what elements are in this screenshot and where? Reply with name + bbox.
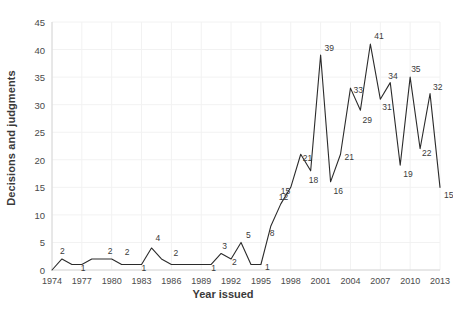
data-point-label: 1 (211, 263, 216, 273)
data-point-label: 21 (345, 152, 354, 162)
data-point-label: 32 (433, 82, 442, 92)
x-tick-label: 1986 (161, 276, 181, 286)
data-point-label: 1 (265, 262, 270, 272)
x-tick-label: 1995 (251, 276, 271, 286)
data-point-label: 2 (60, 246, 65, 256)
y-tick-label: 35 (19, 72, 45, 83)
y-tick-label: 30 (19, 99, 45, 110)
y-tick-label: 15 (19, 182, 45, 193)
data-point-label: 31 (382, 102, 391, 112)
data-point-label: 33 (353, 85, 362, 95)
data-point-label: 2 (108, 246, 113, 256)
data-point-label: 3 (222, 241, 227, 251)
x-tick-label: 2004 (340, 276, 360, 286)
data-point-label: 5 (246, 230, 251, 240)
x-tick-label: 2007 (370, 276, 390, 286)
data-point-label: 8 (270, 228, 275, 238)
data-point-label: 41 (374, 31, 383, 41)
data-point-label: 1 (142, 263, 147, 273)
data-point-label: 15 (281, 186, 290, 196)
x-tick-label: 1977 (72, 276, 92, 286)
x-tick-label: 1998 (281, 276, 301, 286)
data-point-label: 2 (125, 247, 130, 257)
data-point-label: 2 (173, 248, 178, 258)
x-tick-label: 2010 (400, 276, 420, 286)
data-point-label: 21 (303, 153, 312, 163)
data-point-label: 2 (232, 257, 237, 267)
x-tick-label: 1983 (132, 276, 152, 286)
data-point-label: 34 (388, 71, 397, 81)
x-tick-label: 1989 (191, 276, 211, 286)
x-tick-label: 2013 (430, 276, 450, 286)
y-tick-label: 40 (19, 44, 45, 55)
x-axis-title: Year issued (0, 288, 446, 300)
data-point-label: 1 (81, 263, 86, 273)
x-tick-label: 1980 (102, 276, 122, 286)
data-point-label: 4 (155, 233, 160, 243)
y-tick-label: 5 (19, 237, 45, 248)
x-axis-title-text: Year issued (192, 288, 253, 300)
y-tick-label: 0 (19, 265, 45, 276)
y-tick-label: 25 (19, 127, 45, 138)
data-point-label: 15 (444, 190, 453, 200)
data-point-label: 29 (362, 115, 371, 125)
y-tick-label: 10 (19, 209, 45, 220)
y-tick-label: 20 (19, 154, 45, 165)
data-point-label: 16 (334, 186, 343, 196)
y-tick-label: 45 (19, 17, 45, 28)
data-point-label: 19 (403, 169, 412, 179)
x-tick-label: 1992 (221, 276, 241, 286)
x-tick-label: 1974 (42, 276, 62, 286)
data-point-label: 18 (309, 175, 318, 185)
data-point-label: 22 (422, 148, 431, 158)
data-point-label: 35 (411, 64, 420, 74)
x-tick-label: 2001 (311, 276, 331, 286)
data-point-label: 39 (325, 43, 334, 53)
